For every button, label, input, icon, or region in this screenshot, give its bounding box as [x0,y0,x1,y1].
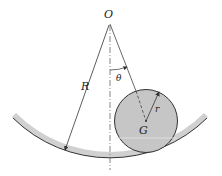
label-r: r [155,104,160,114]
mass-center-point [145,120,147,122]
line-O-to-disk [110,24,136,91]
label-O: O [104,8,113,21]
label-R: R [80,80,89,93]
diagram-canvas: O R θ r G [0,0,222,176]
label-theta: θ [116,73,122,83]
label-G: G [139,124,148,137]
diagram-svg: O R θ r G [0,0,222,176]
theta-arc [110,67,127,70]
